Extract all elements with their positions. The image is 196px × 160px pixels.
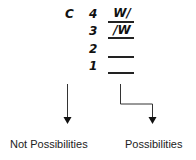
left-arrow-icon xyxy=(64,84,72,124)
possibilities-label: Possibilities xyxy=(125,138,182,150)
not-possibilities-label: Not Possibilities xyxy=(10,138,88,150)
right-arrow-icon xyxy=(121,84,157,124)
arrows xyxy=(0,0,196,160)
